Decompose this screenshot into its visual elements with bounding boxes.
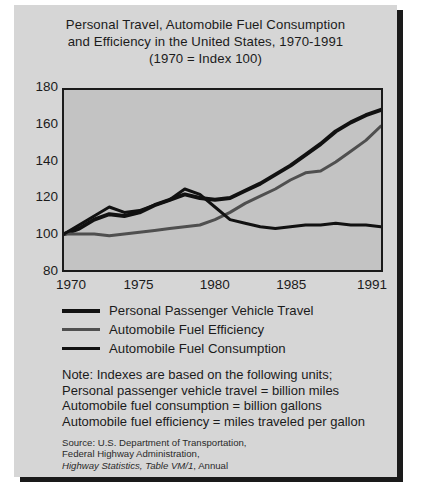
source-publication: Highway Statistics, Table VM/1 xyxy=(62,460,193,471)
x-tick-1975: 1975 xyxy=(123,277,153,292)
figure-panel: Personal Travel, Automobile Fuel Consump… xyxy=(14,5,397,477)
legend-swatch-icon xyxy=(62,347,100,350)
chart-legend: Personal Passenger Vehicle TravelAutomob… xyxy=(62,301,392,358)
x-tick-1980: 1980 xyxy=(200,277,230,292)
y-tick-100: 100 xyxy=(22,226,58,241)
series-lines xyxy=(64,90,381,270)
y-tick-180: 180 xyxy=(22,79,58,94)
y-tick-160: 160 xyxy=(22,116,58,131)
x-tick-1985: 1985 xyxy=(276,277,306,292)
x-tick-1970: 1970 xyxy=(56,277,86,292)
legend-label: Automobile Fuel Consumption xyxy=(109,341,286,356)
note-line-4: Automobile fuel efficiency = miles trave… xyxy=(62,414,392,430)
source-line-3: Highway Statistics, Table VM/1, Annual xyxy=(62,460,392,471)
source-line-2: Federal Highway Administration, xyxy=(62,448,392,459)
note-line-1: Note: Indexes are based on the following… xyxy=(62,367,392,383)
note-line-3: Automobile fuel consumption = billion ga… xyxy=(62,398,392,414)
chart-title-line2: and Efficiency in the United States, 197… xyxy=(14,33,397,50)
legend-item-2[interactable]: Automobile Fuel Consumption xyxy=(62,339,392,358)
legend-label: Personal Passenger Vehicle Travel xyxy=(109,303,314,318)
chart-subtitle: (1970 = Index 100) xyxy=(14,50,397,67)
plot-frame xyxy=(62,88,383,272)
source-line-1: Source: U.S. Department of Transportatio… xyxy=(62,437,392,448)
y-tick-80: 80 xyxy=(22,263,58,278)
y-tick-140: 140 xyxy=(22,153,58,168)
y-tick-120: 120 xyxy=(22,189,58,204)
chart-source: Source: U.S. Department of Transportatio… xyxy=(62,437,392,471)
legend-swatch-icon xyxy=(62,328,100,331)
line-personal-passenger-vehicle-travel xyxy=(64,110,381,234)
x-tick-1991: 1991 xyxy=(357,277,387,292)
legend-label: Automobile Fuel Efficiency xyxy=(109,322,264,337)
legend-item-1[interactable]: Automobile Fuel Efficiency xyxy=(62,320,392,339)
source-annual: , Annual xyxy=(193,460,228,471)
line-automobile-fuel-consumption xyxy=(64,189,381,234)
chart-title-block: Personal Travel, Automobile Fuel Consump… xyxy=(14,5,397,67)
chart-title-line1: Personal Travel, Automobile Fuel Consump… xyxy=(14,16,397,33)
note-line-2: Personal passenger vehicle travel = bill… xyxy=(62,383,392,399)
line-automobile-fuel-efficiency xyxy=(64,126,381,236)
legend-swatch-icon xyxy=(62,309,100,313)
chart-note: Note: Indexes are based on the following… xyxy=(62,367,392,429)
figure-root: Personal Travel, Automobile Fuel Consump… xyxy=(0,0,421,497)
legend-item-0[interactable]: Personal Passenger Vehicle Travel xyxy=(62,301,392,320)
